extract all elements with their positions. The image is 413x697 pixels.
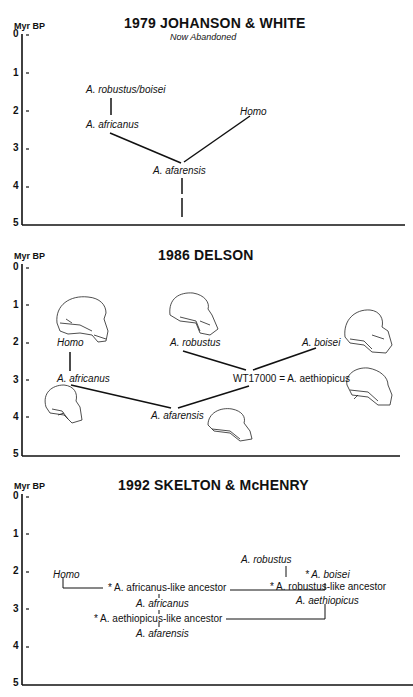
- taxon-afarensis: A. afarensis: [136, 628, 189, 639]
- taxon-homo: Homo: [57, 337, 84, 348]
- panel-2-lines: [0, 235, 413, 465]
- tick-0: 0: [13, 28, 19, 39]
- taxon-africanus: A. africanus: [136, 598, 189, 609]
- taxon-afarensis: A. afarensis: [151, 410, 204, 421]
- panel-title: 1979 JOHANSON & WHITE: [124, 15, 306, 31]
- aethiopicus-skull-icon: [347, 368, 392, 405]
- taxon-robustus: A. robustus: [170, 337, 221, 348]
- africanus-skull-icon: [45, 385, 82, 423]
- taxon-africanus: A. africanus: [86, 119, 139, 130]
- panel-subtitle: Now Abandoned: [170, 32, 236, 42]
- tick-1: 1: [13, 528, 19, 539]
- panel-1979-johanson-white: Myr BP 0 1 2 3 4 5 1979 JOHANSON & WHITE…: [0, 0, 413, 232]
- panel-1986-delson: Myr BP 0 1 2 3 4 5 1986 DELSON Homo A. r…: [0, 235, 413, 465]
- tick-1: 1: [13, 299, 19, 310]
- tick-0: 0: [13, 261, 19, 272]
- tick-4: 4: [13, 180, 19, 191]
- panel-title: 1992 SKELTON & McHENRY: [118, 477, 309, 493]
- tick-3: 3: [13, 374, 19, 385]
- taxon-boisei: * A. boisei: [305, 569, 350, 580]
- taxon-africanus-like-ancestor: * A. africanus-like ancestor: [108, 582, 226, 593]
- robustus-skull-icon: [170, 293, 218, 335]
- taxon-robustus: A. robustus: [241, 554, 292, 565]
- taxon-robustus-boisei: A. robustus/boisei: [86, 84, 166, 95]
- taxon-boisei: A. boisei: [302, 337, 340, 348]
- taxon-aethiopicus: A. aethiopicus: [296, 595, 359, 606]
- afarensis-skull-icon: [208, 409, 252, 441]
- tick-5: 5: [13, 448, 19, 459]
- taxon-homo: Homo: [53, 569, 80, 580]
- tick-2: 2: [13, 565, 19, 576]
- taxon-aethiopicus-like-ancestor: * A. aethiopicus-like ancestor: [94, 613, 222, 624]
- boisei-skull-icon: [345, 310, 392, 353]
- taxon-africanus: A. africanus: [57, 373, 110, 384]
- homo-skull-icon: [57, 297, 108, 342]
- tick-0: 0: [13, 490, 19, 501]
- taxon-homo: Homo: [240, 106, 267, 117]
- y-axis-label: Myr BP: [14, 251, 45, 261]
- tick-4: 4: [13, 411, 19, 422]
- taxon-wt17000-aethiopicus: WT17000 = A. aethiopicus: [233, 373, 350, 384]
- tick-5: 5: [13, 677, 19, 688]
- tick-2: 2: [13, 105, 19, 116]
- tick-1: 1: [13, 67, 19, 78]
- panel-title: 1986 DELSON: [158, 247, 254, 263]
- panel-1992-skelton-mchenry: Myr BP 0 1 2 3 4 5 1992 SKELTON & McHENR…: [0, 465, 413, 697]
- taxon-robustus-like-ancestor: * A. robustus-like ancestor: [270, 581, 386, 592]
- tick-2: 2: [13, 336, 19, 347]
- tick-4: 4: [13, 640, 19, 651]
- tick-5: 5: [13, 217, 19, 228]
- tick-3: 3: [13, 142, 19, 153]
- taxon-afarensis: A. afarensis: [153, 165, 206, 176]
- tick-3: 3: [13, 603, 19, 614]
